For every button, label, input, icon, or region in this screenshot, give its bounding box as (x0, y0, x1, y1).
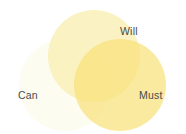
venn-label-can: Can (18, 90, 38, 101)
venn-circle-group (19, 10, 166, 131)
venn-circle-must (74, 39, 166, 131)
venn-canvas (0, 0, 186, 134)
venn-label-must: Must (139, 90, 163, 101)
venn-diagram: Will Can Must (0, 0, 186, 134)
venn-label-will: Will (120, 26, 138, 37)
